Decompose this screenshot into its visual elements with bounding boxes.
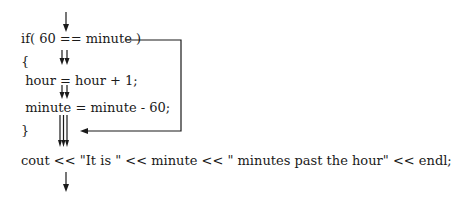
sequence-double-arrow-icon bbox=[60, 85, 70, 99]
entry-arrow-icon bbox=[63, 12, 69, 32]
merge-arrows-icon bbox=[58, 115, 69, 147]
exit-arrow-icon bbox=[63, 172, 69, 192]
true-branch-double-arrow-icon bbox=[60, 50, 70, 65]
false-branch-bypass-line-icon bbox=[80, 40, 181, 134]
